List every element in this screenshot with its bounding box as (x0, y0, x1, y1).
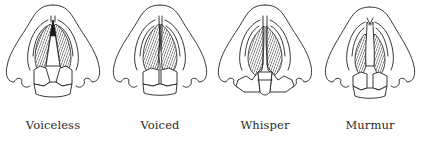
arytenoid-left (34, 66, 50, 86)
vocal-fold-right (373, 34, 385, 76)
cricoid-cartilage (258, 72, 272, 95)
vocal-fold-left (143, 24, 160, 74)
larynx-voiceless-illustration (0, 0, 106, 106)
arytenoid-right (270, 72, 294, 92)
glottis-opening (366, 22, 375, 66)
panel-label: Voiced (107, 118, 213, 132)
panel-label: Whisper (212, 118, 318, 132)
vocal-fold-left (355, 34, 367, 76)
larynx-voiced-illustration (107, 0, 213, 106)
arytenoid-left (143, 68, 159, 86)
arytenoid-left (236, 72, 260, 92)
panel-label: Voiceless (0, 118, 106, 132)
glottal-states-diagram: Voiceless Voiced (0, 0, 423, 143)
larynx-whisper-illustration (212, 0, 318, 106)
larynx-murmur-illustration (317, 0, 423, 106)
panel-whisper: Whisper (212, 0, 318, 143)
panel-label: Murmur (317, 118, 423, 132)
arytenoid-right (161, 68, 177, 86)
panel-murmur: Murmur (317, 0, 423, 143)
cricoid-cartilage (143, 84, 177, 95)
vocal-fold-right (160, 24, 177, 74)
epiglottis-outline (113, 5, 206, 87)
arytenoid-right (56, 66, 72, 86)
panel-voiceless: Voiceless (0, 0, 106, 143)
panel-voiced: Voiced (107, 0, 213, 143)
